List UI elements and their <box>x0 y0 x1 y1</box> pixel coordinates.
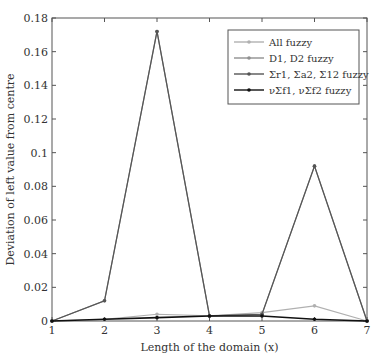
data-point <box>313 164 317 168</box>
data-point <box>365 319 369 323</box>
x-axis-label: Length of the domain (x) <box>140 341 278 354</box>
data-point <box>103 318 107 322</box>
legend-item: νΣf1, νΣf2 fuzzy <box>269 85 352 96</box>
data-point <box>155 30 159 34</box>
y-tick-label: 0.18 <box>24 12 49 25</box>
x-tick-label: 5 <box>259 324 266 337</box>
y-tick-label: 0.16 <box>24 46 49 59</box>
legend-item: Σr1, Σa2, Σ12 fuzzy <box>269 69 369 80</box>
data-point <box>313 318 317 322</box>
data-point <box>260 314 264 318</box>
x-tick-label: 3 <box>154 324 161 337</box>
x-tick-label: 1 <box>49 324 56 337</box>
y-tick-label: 0.12 <box>24 113 49 126</box>
legend-item: All fuzzy <box>268 37 312 48</box>
data-point <box>155 312 159 316</box>
y-axis-label: Deviation of left value from centre <box>4 73 17 265</box>
chart: 00.020.040.060.080.10.120.140.160.181234… <box>0 0 384 360</box>
line-chart: 00.020.040.060.080.10.120.140.160.181234… <box>0 0 384 360</box>
data-point <box>208 314 212 318</box>
x-tick-label: 7 <box>364 324 371 337</box>
x-tick-label: 2 <box>101 324 108 337</box>
legend-item: D1, D2 fuzzy <box>269 53 334 64</box>
y-tick-label: 0.06 <box>24 214 49 227</box>
data-point <box>103 299 107 303</box>
y-tick-label: 0.14 <box>24 79 49 92</box>
y-tick-label: 0.1 <box>31 147 49 160</box>
x-tick-label: 6 <box>311 324 318 337</box>
y-tick-label: 0.04 <box>24 248 49 261</box>
y-tick-label: 0.08 <box>24 180 49 193</box>
y-tick-label: 0 <box>41 315 48 328</box>
data-point <box>50 319 54 323</box>
data-point <box>155 316 159 320</box>
data-point <box>313 304 317 308</box>
y-tick-label: 0.02 <box>24 281 49 294</box>
x-tick-label: 4 <box>206 324 213 337</box>
